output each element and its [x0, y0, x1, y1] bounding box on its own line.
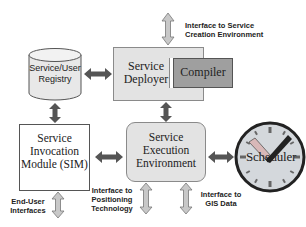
end-user-interface-arrow	[51, 191, 65, 219]
deployer-execution-arrow	[159, 101, 173, 123]
creation-interface-arrow	[161, 12, 175, 46]
compiler-label: Compiler	[173, 65, 233, 80]
sim-label: Service Invocation Module (SIM)	[19, 132, 90, 171]
registry-label: Service/User Registry	[27, 63, 83, 85]
gis-interface-arrow	[179, 182, 193, 215]
positioning-interface-label: Interface to Positioning Technology	[86, 186, 138, 213]
creation-interface-label: Interface to Service Creation Environmen…	[185, 21, 275, 39]
gis-interface-label: Interface to GIS Data	[196, 190, 246, 208]
registry-sim-arrow	[48, 102, 62, 124]
execution-environment-label: Service Execution Environment	[126, 131, 206, 170]
positioning-interface-arrow	[139, 182, 153, 215]
sim-execution-arrow	[94, 150, 124, 164]
end-user-interface-label: End-User Interfaces	[6, 197, 50, 215]
service-deployer-label: Service Deployer	[116, 60, 176, 86]
execution-scheduler-arrow	[207, 150, 235, 164]
scheduler-label: Scheduler	[236, 149, 306, 165]
registry-deployer-arrow	[83, 67, 113, 81]
